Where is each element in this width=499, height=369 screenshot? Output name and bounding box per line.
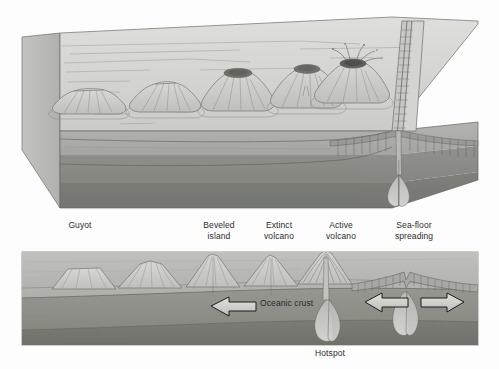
label-guyot: Guyot: [48, 220, 112, 231]
geology-figure: [0, 0, 499, 369]
top-perspective-block: [22, 17, 478, 208]
block-left-side-face: [22, 33, 60, 208]
label-oceanic-crust: Oceanic crust: [260, 298, 330, 309]
label-extinct-volcano: Extinct volcano: [256, 220, 302, 241]
label-hotspot: Hotspot: [305, 348, 355, 359]
label-active-volcano: Active volcano: [318, 220, 364, 241]
figure-canvas: [0, 0, 499, 369]
label-sea-floor-spreading: Sea-floor spreading: [384, 220, 444, 241]
bottom-cross-section: [22, 250, 478, 345]
label-beveled-island: Beveled island: [196, 220, 242, 241]
